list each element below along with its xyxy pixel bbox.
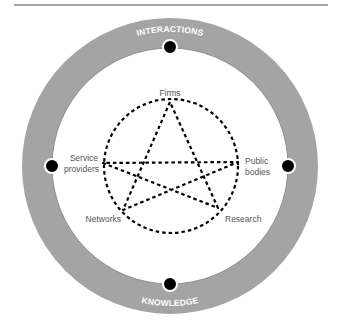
node-label-service-providers-line2: providers — [64, 164, 99, 174]
ring-dot-bottom — [163, 277, 177, 291]
node-label-research: Research — [225, 214, 262, 224]
node-label-networks: Networks — [86, 214, 121, 224]
node-label-public-bodies-line1: Public — [245, 156, 269, 166]
node-label-public-bodies-line2: bodies — [245, 167, 270, 177]
ring-dot-top — [163, 40, 177, 54]
ring-dot-right — [281, 159, 295, 173]
ring-dot-left — [45, 159, 59, 173]
node-label-service-providers-line1: Service — [70, 153, 99, 163]
dashed-network-circle — [104, 99, 238, 233]
node-label-firms: Firms — [159, 88, 180, 98]
cluster-diagram: INTERACTIONS KNOWLEDGE PROXIMITY SPECIAL… — [0, 0, 338, 325]
